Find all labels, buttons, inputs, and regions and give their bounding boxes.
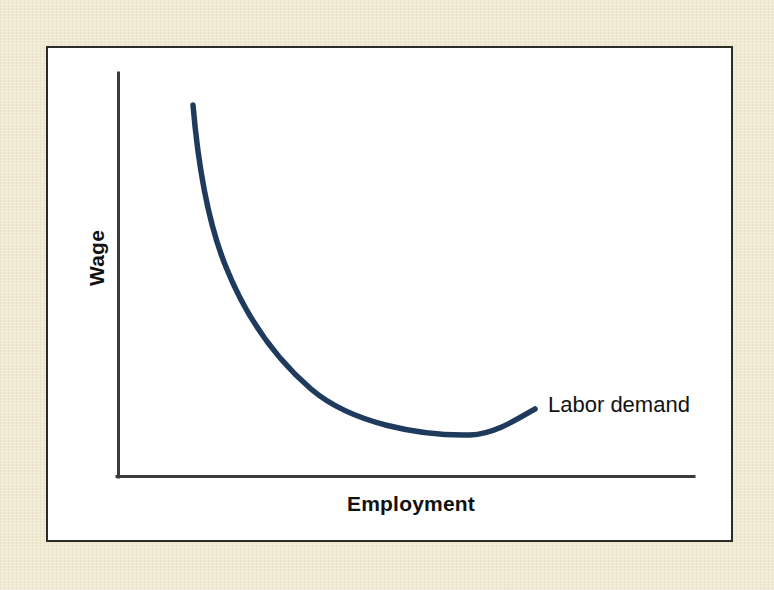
labor-demand-curve-label: Labor demand: [548, 392, 690, 418]
x-axis-label: Employment: [211, 492, 611, 516]
y-axis-label: Wage: [85, 198, 109, 318]
chart-panel: [46, 46, 733, 542]
